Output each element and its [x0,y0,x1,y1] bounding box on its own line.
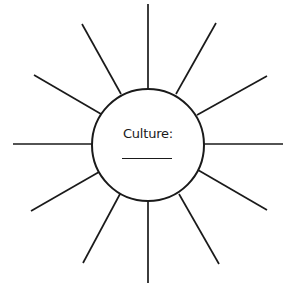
sun-diagram [0,0,292,292]
ray-lower-right-shallow [198,170,267,210]
ray-lower-left-shallow [31,172,99,211]
answer-blank-line [122,158,172,159]
ray-lower-left-steep [83,194,120,263]
ray-upper-left-steep [82,24,121,94]
ray-upper-right-shallow [197,76,267,115]
ray-upper-right-steep [176,23,216,94]
ray-lower-right-steep [179,194,219,264]
center-label: Culture: [98,126,198,141]
center-circle [92,89,204,201]
ray-upper-left-shallow [34,75,101,114]
culture-sun-organizer: Culture: [0,0,292,292]
